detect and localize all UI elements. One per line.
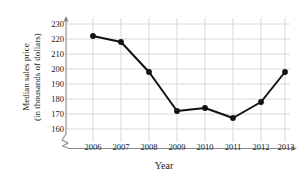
x-tick-2013: 2013 — [271, 143, 301, 152]
data-point-2010 — [202, 105, 208, 111]
x-axis-label: Year — [155, 160, 173, 171]
y-tick-220: 220 — [44, 35, 64, 44]
x-axis-tick-labels: 2006 2007 2008 2009 2010 2011 2012 2013 — [0, 143, 306, 157]
y-tick-160: 160 — [44, 125, 64, 134]
data-point-2013 — [282, 69, 288, 75]
y-tick-200: 200 — [44, 65, 64, 74]
y-tick-190: 190 — [44, 80, 64, 89]
chart-figure: Median sales price (in thousands of doll… — [0, 0, 306, 185]
y-tick-230: 230 — [44, 20, 64, 29]
y-axis-spine — [63, 16, 68, 134]
x-tick-2006: 2006 — [78, 143, 108, 152]
data-line — [93, 36, 285, 118]
x-axis-label-wrap: Year — [0, 160, 306, 171]
y-tick-180: 180 — [44, 95, 64, 104]
data-point-2012 — [258, 99, 264, 105]
data-point-2007 — [118, 39, 124, 45]
y-tick-170: 170 — [44, 110, 64, 119]
data-points — [90, 33, 288, 121]
data-point-2011 — [230, 115, 236, 121]
y-axis-tick-labels: 230 220 210 200 190 180 170 160 — [40, 0, 64, 185]
data-point-2008 — [146, 69, 152, 75]
x-tick-2009: 2009 — [162, 143, 192, 152]
x-tick-2010: 2010 — [190, 143, 220, 152]
vertical-gridlines — [93, 18, 285, 142]
y-tick-210: 210 — [44, 50, 64, 59]
data-point-2009 — [174, 108, 180, 114]
x-tick-2011: 2011 — [218, 143, 248, 152]
x-tick-2007: 2007 — [106, 143, 136, 152]
y-axis-label-line1: Median sales price — [21, 33, 32, 121]
x-tick-2008: 2008 — [134, 143, 164, 152]
data-point-2006 — [90, 33, 96, 39]
